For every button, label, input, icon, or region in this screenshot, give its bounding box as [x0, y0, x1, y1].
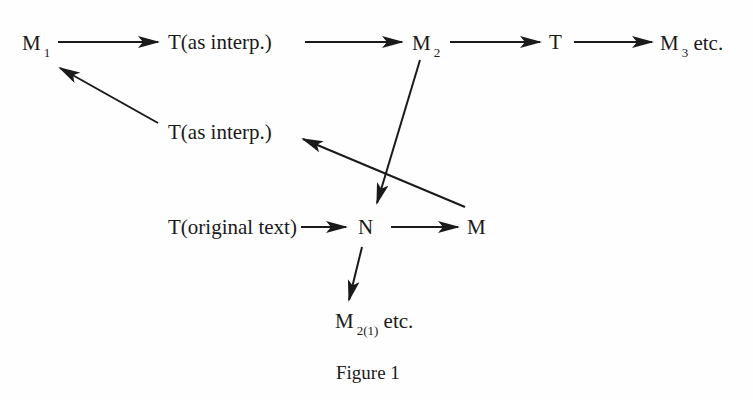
- node-t-interp-mid: T(as interp.): [168, 122, 272, 143]
- node-m3: M3 etc.: [660, 33, 723, 54]
- node-m1-label: M: [22, 31, 41, 55]
- node-m2-label: M: [412, 31, 431, 55]
- diagram-canvas: M1 T(as interp.) M2 T M3 etc. T(as inter…: [0, 0, 753, 400]
- arrow-m2-to-n: [377, 60, 420, 203]
- node-m: M: [467, 217, 486, 238]
- node-m21-suffix: etc.: [378, 309, 413, 333]
- figure-caption: Figure 1: [336, 362, 400, 384]
- node-t-original: T(original text): [168, 217, 297, 238]
- node-m1-subscript: 1: [44, 45, 51, 60]
- diagram-edges: [0, 0, 753, 400]
- node-t-interp-mid-label: T(as interp.): [168, 120, 272, 144]
- node-t-interp-top: T(as interp.): [168, 32, 272, 53]
- node-n: N: [358, 217, 373, 238]
- node-m2: M2: [412, 33, 440, 54]
- arrow-t-interp-mid-to-m1: [60, 68, 158, 123]
- node-m1: M1: [22, 33, 50, 54]
- node-m21-subscript: 2(1): [357, 323, 379, 338]
- node-m21: M2(1) etc.: [335, 311, 413, 332]
- node-t-original-label: T(original text): [168, 215, 297, 239]
- node-m-label: M: [467, 215, 486, 239]
- arrow-m-to-t-interp-mid: [303, 139, 465, 207]
- arrow-n-to-m21: [349, 247, 362, 300]
- node-n-label: N: [358, 215, 373, 239]
- node-m3-suffix: etc.: [688, 31, 723, 55]
- node-m21-label: M: [335, 309, 354, 333]
- node-t: T: [549, 32, 562, 53]
- node-t-label: T: [549, 30, 562, 54]
- node-t-interp-top-label: T(as interp.): [168, 30, 272, 54]
- node-m3-label: M: [660, 31, 679, 55]
- node-m2-subscript: 2: [434, 45, 441, 60]
- node-m3-subscript: 3: [682, 45, 689, 60]
